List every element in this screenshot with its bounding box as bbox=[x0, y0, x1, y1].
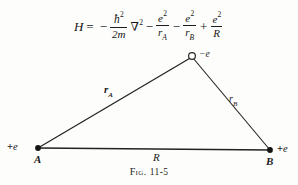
attraction-a-denominator: rA bbox=[156, 25, 169, 41]
figure-page: H = − ħ2 2m ∇2 − e2 rA − e2 rB + e2 R bbox=[0, 0, 298, 185]
electron-circle bbox=[189, 53, 196, 60]
nucleus-b-charge-symbol: e bbox=[283, 143, 288, 154]
minus-sign-3: − bbox=[170, 20, 182, 33]
edge-label-internuclear-r: R bbox=[153, 152, 160, 163]
edge-r-a bbox=[38, 57, 192, 148]
radius-subscript-a: A bbox=[162, 33, 167, 42]
nucleus-a-charge-label: +e bbox=[7, 142, 18, 153]
edge-label-r-a-subscript: A bbox=[108, 91, 113, 99]
kinetic-term-fraction: ħ2 2m bbox=[110, 12, 127, 40]
electron-charge-label: −e bbox=[199, 50, 210, 60]
charge-symbol-r: e bbox=[212, 13, 217, 25]
hbar-exponent: 2 bbox=[120, 10, 124, 19]
repulsion-numerator: e2 bbox=[210, 12, 223, 26]
radius-subscript-b: B bbox=[189, 33, 194, 42]
plus-sign: + bbox=[197, 20, 209, 33]
edge-internuclear-r bbox=[38, 148, 270, 150]
nucleus-a-dot bbox=[35, 145, 41, 151]
nucleus-b-dot bbox=[267, 147, 273, 153]
hamiltonian-symbol: H bbox=[74, 20, 83, 33]
edge-label-r-a: rA bbox=[104, 84, 113, 98]
hbar-symbol: ħ bbox=[114, 13, 120, 25]
equals-sign: = bbox=[83, 20, 96, 33]
nabla-operator: ∇2 bbox=[128, 20, 142, 33]
figure-caption-prefix: Fig. bbox=[130, 166, 147, 177]
nucleus-a-label: A bbox=[34, 154, 41, 165]
attraction-b-denominator: rB bbox=[183, 25, 196, 41]
figure-caption: Fig.11-5 bbox=[0, 166, 298, 177]
attraction-b-fraction: e2 rB bbox=[183, 11, 196, 41]
kinetic-numerator: ħ2 bbox=[112, 12, 126, 27]
charge-exponent-r: 2 bbox=[218, 10, 222, 19]
repulsion-fraction: e2 R bbox=[210, 12, 223, 40]
minus-sign-2: − bbox=[143, 20, 155, 33]
molecule-geometry-diagram: −e +e A +e B rA rB R bbox=[0, 44, 298, 164]
charge-exponent-b: 2 bbox=[190, 9, 194, 18]
nucleus-a-charge-symbol: e bbox=[13, 141, 18, 152]
charge-exponent-a: 2 bbox=[163, 9, 167, 18]
nucleus-b-charge-label: +e bbox=[277, 144, 288, 155]
internuclear-distance-symbol: R bbox=[211, 26, 222, 39]
equation-row: H = − ħ2 2m ∇2 − e2 rA − e2 rB + e2 R bbox=[74, 11, 224, 41]
attraction-a-fraction: e2 rA bbox=[156, 11, 169, 41]
attraction-b-numerator: e2 bbox=[183, 11, 196, 25]
diagram-canvas bbox=[0, 44, 298, 164]
nabla-exponent: 2 bbox=[139, 18, 143, 27]
attraction-a-numerator: e2 bbox=[156, 11, 169, 25]
edge-label-r-b: rB bbox=[229, 94, 237, 107]
edge-label-r-b-subscript: B bbox=[233, 100, 237, 108]
minus-sign-1: − bbox=[97, 20, 109, 33]
electron-charge-symbol: e bbox=[205, 49, 209, 59]
nabla-symbol: ∇ bbox=[130, 20, 138, 34]
kinetic-denominator: 2m bbox=[110, 27, 127, 40]
hamiltonian-equation: H = − ħ2 2m ∇2 − e2 rA − e2 rB + e2 R bbox=[0, 11, 298, 41]
figure-caption-number: 11-5 bbox=[147, 167, 169, 177]
